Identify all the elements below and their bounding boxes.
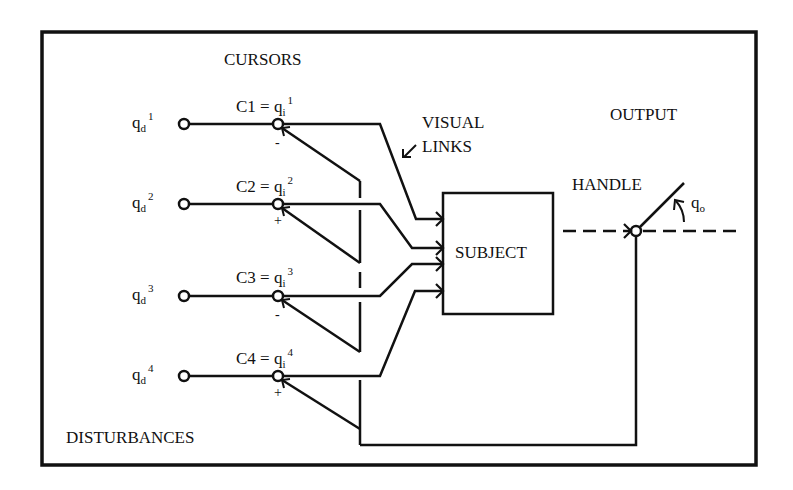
disturbance-lines (189, 124, 273, 376)
disturbance-base: q (132, 193, 141, 212)
handle-lever (640, 183, 684, 227)
cursor-label-2: C2 = qi2 (236, 178, 293, 195)
cursor-sub: i (282, 106, 285, 118)
cursor-name: C2 (236, 177, 256, 196)
cursor-sign-4: + (274, 386, 282, 400)
disturbance-sup: 1 (148, 110, 154, 122)
disturbance-label-1: qd1 (132, 114, 154, 131)
cursor-nodes (273, 119, 283, 381)
cursor-sup: 4 (288, 346, 294, 358)
cursors-label: CURSORS (224, 51, 301, 68)
handle-feedback-line (360, 236, 636, 445)
output-label: OUTPUT (610, 106, 677, 123)
disturbance-label-2: qd2 (132, 194, 154, 211)
visual-links-label-line2: LINKS (422, 138, 472, 155)
cursor-sub: i (282, 277, 285, 289)
disturbance-sup: 3 (148, 282, 154, 294)
disturbance-base: q (132, 285, 141, 304)
handle-angle-sub: o (700, 202, 706, 214)
disturbance-base: q (132, 113, 141, 132)
cursor-eq: = (256, 177, 274, 196)
disturbance-base: q (132, 365, 141, 384)
cursor-sign-1: - (275, 136, 280, 150)
handle-angle-base: q (691, 193, 700, 212)
disturbance-sub: d (141, 122, 147, 134)
cursor-sup: 2 (288, 174, 294, 186)
disturbance-nodes (179, 119, 189, 381)
cursor-sub: i (282, 358, 285, 370)
block-diagram (0, 0, 793, 490)
disturbance-sub: d (141, 294, 147, 306)
disturbance-label-3: qd3 (132, 286, 154, 303)
cursor-sign-2: + (274, 214, 282, 228)
feedback-diagonals (282, 128, 360, 429)
cursor-name: C3 (236, 268, 256, 287)
cursor-label-4: C4 = qi4 (236, 350, 293, 367)
disturbance-sup: 4 (148, 362, 154, 374)
visual-links-pointer (404, 145, 416, 157)
cursor-sup: 3 (288, 265, 294, 277)
visual-links-label-line1: VISUAL (422, 114, 484, 131)
cursor-label-1: C1 = qi1 (236, 98, 293, 115)
cursor-eq: = (256, 349, 274, 368)
cursor-name: C4 (236, 349, 256, 368)
angle-arc (676, 201, 684, 222)
disturbance-sub: d (141, 202, 147, 214)
cursor-sign-3: - (275, 308, 280, 322)
handle-angle-label: qo (691, 194, 705, 211)
cursor-eq: = (256, 97, 274, 116)
cursor-label-3: C3 = qi3 (236, 269, 293, 286)
figure-frame (42, 32, 756, 465)
cursor-name: C1 (236, 97, 256, 116)
handle-label: HANDLE (572, 176, 642, 193)
visual-links (283, 124, 443, 376)
disturbance-sup: 2 (148, 190, 154, 202)
disturbance-label-4: qd4 (132, 366, 154, 383)
cursor-eq: = (256, 268, 274, 287)
disturbances-label: DISTURBANCES (66, 429, 194, 446)
subject-label: SUBJECT (455, 244, 527, 261)
cursor-sub: i (282, 186, 285, 198)
cursor-sup: 1 (288, 94, 294, 106)
disturbance-sub: d (141, 374, 147, 386)
